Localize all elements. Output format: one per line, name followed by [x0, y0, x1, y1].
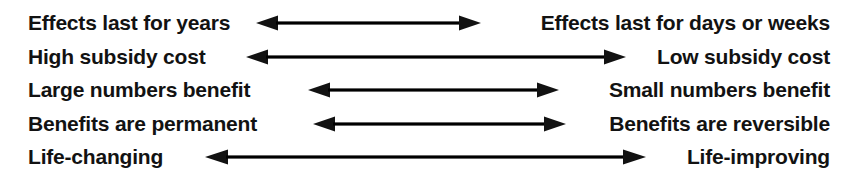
- left-label: Benefits are permanent: [28, 107, 257, 141]
- left-label: High subsidy cost: [28, 40, 205, 74]
- left-label: Life-changing: [28, 140, 163, 174]
- left-label: Effects last for years: [28, 6, 230, 40]
- double-headed-arrow-icon: [308, 73, 559, 107]
- double-headed-arrow-icon: [205, 140, 646, 174]
- right-label: Low subsidy cost: [657, 40, 830, 74]
- comparison-spectrum-diagram: Effects last for years Effects last for …: [0, 0, 857, 179]
- double-headed-arrow-icon: [246, 40, 626, 74]
- right-label: Benefits are reversible: [609, 107, 830, 141]
- left-label: Large numbers benefit: [28, 73, 250, 107]
- comparison-row: Life-changing Life-improving: [0, 140, 857, 174]
- double-headed-arrow-icon: [313, 107, 566, 141]
- comparison-row: Benefits are permanent Benefits are reve…: [0, 107, 857, 141]
- right-label: Life-improving: [687, 140, 830, 174]
- comparison-row: Effects last for years Effects last for …: [0, 6, 857, 40]
- double-headed-arrow-icon: [256, 6, 481, 40]
- right-label: Effects last for days or weeks: [541, 6, 830, 40]
- right-label: Small numbers benefit: [609, 73, 830, 107]
- comparison-row: High subsidy cost Low subsidy cost: [0, 40, 857, 74]
- comparison-row: Large numbers benefit Small numbers bene…: [0, 73, 857, 107]
